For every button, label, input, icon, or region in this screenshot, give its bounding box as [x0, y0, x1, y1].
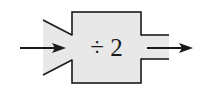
machine-label: ÷ 2	[72, 12, 141, 83]
output-tube	[141, 35, 169, 59]
